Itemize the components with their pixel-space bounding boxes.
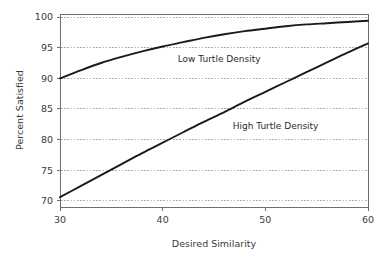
y-tick-label-70: 70 [41, 195, 53, 206]
series-label-low-turtle-density: Low Turtle Density [178, 54, 261, 64]
series-label-high-turtle-density: High Turtle Density [233, 121, 319, 131]
plot-background [60, 14, 368, 207]
x-axis-ticks: 30405060 [54, 207, 374, 225]
y-tick-label-85: 85 [41, 103, 53, 114]
x-tick-label-40: 40 [157, 214, 169, 225]
y-axis-title: Percent Satisfied [14, 70, 25, 150]
y-axis-ticks: 707580859095100 [35, 11, 60, 206]
y-tick-label-80: 80 [41, 134, 53, 145]
y-tick-label-75: 75 [41, 165, 53, 176]
x-tick-label-30: 30 [54, 214, 66, 225]
y-tick-label-90: 90 [41, 73, 53, 84]
x-tick-label-50: 50 [259, 214, 271, 225]
y-tick-label-95: 95 [41, 42, 53, 53]
line-chart: 707580859095100 30405060 Low Turtle Dens… [0, 0, 392, 263]
y-tick-label-100: 100 [35, 11, 53, 22]
x-tick-label-60: 60 [362, 214, 374, 225]
x-axis-title: Desired Similarity [172, 238, 257, 249]
chart-figure: 707580859095100 30405060 Low Turtle Dens… [0, 0, 392, 263]
